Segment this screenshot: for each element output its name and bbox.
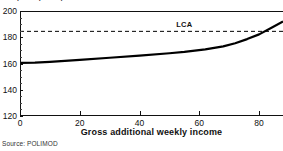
x-tick-mark bbox=[140, 111, 141, 116]
x-axis-line bbox=[20, 115, 283, 116]
y-tick-mark bbox=[20, 11, 23, 12]
y-tick-mark bbox=[20, 90, 23, 91]
y-minor-tick bbox=[20, 50, 22, 51]
y-minor-tick bbox=[20, 77, 22, 78]
y-tick-label: 200 bbox=[3, 7, 17, 16]
x-axis-label: Gross additional weekly income bbox=[20, 127, 283, 137]
x-tick-mark bbox=[259, 111, 260, 116]
y-minor-tick bbox=[20, 24, 22, 25]
y-tick-mark bbox=[20, 64, 23, 65]
y-tick-label: 140 bbox=[3, 86, 17, 95]
y-tick-label: 160 bbox=[3, 59, 17, 68]
y-minor-tick bbox=[20, 44, 22, 45]
y-minor-tick bbox=[20, 57, 22, 58]
plot-area: 120140160180200 020406080 bbox=[20, 11, 283, 116]
y-minor-tick bbox=[20, 103, 22, 104]
y-minor-tick bbox=[20, 83, 22, 84]
axis-frame-top bbox=[20, 11, 283, 12]
y-tick-mark bbox=[20, 37, 23, 38]
y-minor-tick bbox=[20, 96, 22, 97]
y-tick-label: 180 bbox=[3, 33, 17, 42]
x-tick-mark bbox=[199, 111, 200, 116]
y-tick-mark bbox=[20, 116, 23, 117]
y-minor-tick bbox=[20, 31, 22, 32]
source-note: Source: POLIMOD bbox=[2, 140, 58, 147]
x-tick-mark bbox=[80, 111, 81, 116]
y-minor-tick bbox=[20, 18, 22, 19]
lca-label: LCA bbox=[176, 20, 192, 29]
x-tick-mark bbox=[20, 111, 21, 116]
y-minor-tick bbox=[20, 70, 22, 71]
y-tick-label: 120 bbox=[3, 112, 17, 121]
chart-figure: per capita equivalised income 1201401601… bbox=[0, 0, 283, 151]
